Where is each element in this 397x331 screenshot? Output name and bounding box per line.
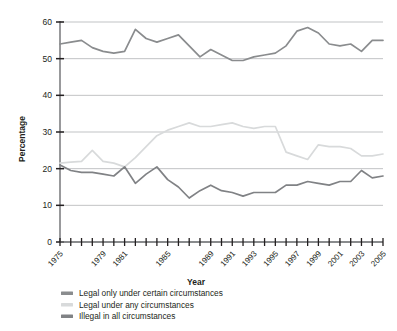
series-line-0 [60,28,383,61]
x-tick-label-1997: 1997 [283,249,302,269]
legend-label-2: Illegal in all circumstances [79,311,175,321]
data-series [60,28,383,199]
chart-canvas: 0102030405060 19751979198119851989199119… [0,0,397,331]
y-tick-labels: 0102030405060 [43,17,53,247]
legend-swatch-certain [61,292,73,296]
y-tick-label-20: 20 [43,164,53,174]
series-line-2 [60,165,383,198]
x-tick-label-1985: 1985 [154,249,173,269]
x-tick-label-1989: 1989 [197,249,216,269]
x-tick-label-1975: 1975 [46,249,65,269]
x-tick-label-1993: 1993 [240,249,259,269]
x-tick-label-1999: 1999 [305,249,324,269]
y-tick-label-30: 30 [43,127,53,137]
x-tick-label-1995: 1995 [262,249,281,269]
y-tick-label-10: 10 [43,200,53,210]
legend-label-0: Legal only under certain circumstances [79,288,223,298]
legend-swatch-illegal [61,315,73,319]
y-tick-label-40: 40 [43,90,53,100]
legend-swatch-any [61,303,73,307]
series-line-1 [60,123,383,167]
x-tick-labels: 1975197919811985198919911993199519971999… [46,249,388,269]
x-tick-label-1979: 1979 [89,249,108,269]
x-axis [60,238,383,246]
x-tick-label-2003: 2003 [348,249,367,269]
line-chart: 0102030405060 19751979198119851989199119… [0,0,397,331]
y-axis-title: Percentage [17,116,27,162]
chart-legend: Legal only under certain circumstancesLe… [61,288,223,321]
y-tick-label-60: 60 [43,17,53,27]
x-tick-label-2001: 2001 [326,249,345,269]
x-axis-title: Year [187,277,206,287]
x-tick-label-2005: 2005 [369,249,388,269]
y-axis [56,21,64,242]
y-tick-label-50: 50 [43,54,53,64]
x-tick-label-1981: 1981 [111,249,130,269]
legend-label-1: Legal under any circumstances [79,300,194,310]
x-tick-label-1991: 1991 [219,249,238,269]
y-tick-label-0: 0 [47,237,52,247]
